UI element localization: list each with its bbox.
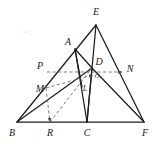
vertex-label-F: F [142,128,148,138]
vertex-label-C: C [84,128,91,138]
vertex-label-P: P [37,61,43,71]
vertex-label-O: O [94,73,99,80]
vertex-label-B: B [9,128,15,138]
vertex-label-R: R [47,128,53,138]
vertex-label-E: E [93,7,99,17]
figure-canvas [0,0,161,151]
vertex-label-M: M [36,84,44,94]
vertex-label-N: N [127,64,134,74]
segment-A-L [75,49,82,87]
segment-D-F [92,68,144,122]
solid-segment-layer [17,25,144,122]
dashed-segment-layer [46,68,122,122]
dashed-M-to-R-arrow [46,88,50,122]
vertex-label-L: L [83,85,87,93]
segment-E-F [96,25,144,122]
vertex-label-D: D [95,57,102,67]
vertex-label-A: A [65,37,71,47]
geometry-figure: E A D O N P M L B R C F [0,0,161,151]
